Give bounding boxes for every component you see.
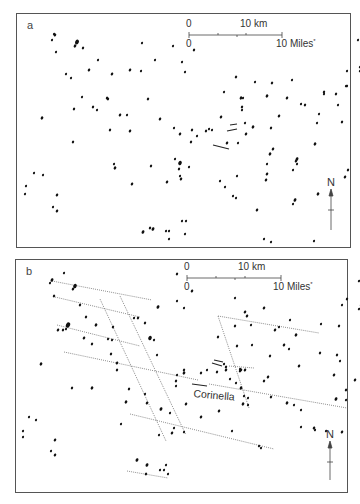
site-marker [295, 162, 298, 165]
site-marker [115, 361, 119, 365]
site-marker [130, 182, 134, 186]
site-marker [90, 386, 94, 390]
site-marker [215, 370, 218, 374]
site-marker [244, 132, 248, 136]
site-marker [262, 379, 265, 383]
site-marker [124, 400, 128, 404]
site-marker [257, 444, 260, 447]
site-marker [178, 132, 182, 136]
site-marker [95, 108, 98, 111]
site-marker [174, 384, 177, 387]
site-marker [205, 368, 208, 371]
site-marker [50, 278, 54, 282]
site-marker [235, 174, 238, 177]
north-label-b: N [326, 428, 334, 440]
site-marker [199, 371, 202, 375]
site-marker [239, 386, 243, 390]
site-marker [182, 371, 186, 375]
feature-line [227, 129, 237, 131]
site-marker [353, 378, 357, 382]
site-marker [218, 179, 221, 182]
site-marker [219, 115, 223, 119]
scale-km-label: 10 km [240, 18, 267, 29]
site-marker [118, 113, 122, 117]
site-marker [318, 351, 321, 355]
site-marker [230, 429, 233, 432]
map-panel-b: b 0 10 km 0 10 Miles* N Corinella [15, 259, 348, 493]
site-marker [178, 174, 181, 177]
site-marker [291, 202, 294, 205]
site-marker [270, 81, 273, 85]
site-marker [343, 175, 347, 179]
site-marker [180, 60, 183, 63]
site-marker [64, 72, 67, 75]
feature-line [230, 124, 237, 125]
site-marker [53, 453, 57, 457]
site-marker [50, 38, 53, 41]
sites-layer-a [23, 32, 360, 243]
site-marker [78, 303, 81, 307]
site-marker [340, 120, 343, 124]
site-marker [162, 468, 165, 471]
north-arrow-a [328, 189, 334, 230]
site-marker [268, 152, 272, 156]
site-marker [299, 425, 302, 428]
site-marker [167, 237, 170, 240]
site-marker [265, 94, 269, 98]
site-marker [269, 395, 272, 399]
site-marker [144, 472, 147, 476]
site-marker [143, 392, 146, 395]
site-marker [249, 323, 252, 326]
alignment-line [55, 297, 140, 317]
site-marker [273, 328, 277, 332]
site-marker [90, 342, 93, 346]
panel-label-a: a [27, 19, 33, 31]
site-marker [157, 433, 160, 436]
site-marker [338, 359, 341, 362]
site-marker [269, 126, 272, 130]
site-marker [140, 41, 143, 44]
site-marker [204, 129, 207, 133]
site-marker [243, 310, 247, 314]
site-marker [128, 129, 132, 133]
site-marker [158, 117, 162, 121]
feature-line [212, 363, 222, 366]
site-marker [109, 352, 112, 356]
site-marker [288, 318, 291, 321]
site-marker [135, 458, 139, 462]
site-marker [340, 303, 343, 306]
site-marker [166, 472, 169, 475]
site-marker [222, 90, 225, 93]
site-marker [224, 368, 228, 372]
site-marker [145, 401, 149, 405]
site-marker [53, 438, 57, 442]
site-marker [223, 185, 226, 188]
site-map-b [16, 260, 347, 492]
site-marker [172, 426, 175, 429]
site-marker [156, 305, 160, 309]
site-marker [155, 353, 158, 356]
site-marker [319, 322, 322, 325]
site-marker [182, 430, 185, 433]
site-marker [84, 315, 87, 319]
site-marker [262, 237, 265, 240]
site-marker [224, 365, 227, 369]
site-marker [264, 178, 268, 182]
site-marker [81, 46, 84, 50]
site-marker [259, 446, 262, 449]
site-marker [73, 44, 77, 48]
site-marker [41, 173, 44, 176]
site-marker [243, 121, 246, 124]
site-marker [187, 165, 190, 168]
site-marker [234, 381, 237, 384]
site-marker [55, 209, 59, 213]
site-marker [190, 289, 194, 293]
site-marker [225, 141, 229, 145]
site-marker [266, 375, 270, 379]
site-marker [345, 69, 348, 72]
site-marker [192, 48, 195, 52]
site-marker [172, 126, 175, 129]
site-marker [180, 219, 183, 222]
site-marker [228, 377, 231, 380]
site-marker [236, 141, 239, 144]
